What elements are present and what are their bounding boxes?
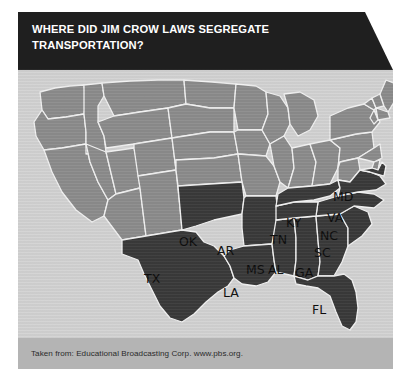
us-choropleth-map: OK AR TX LA MS AL GA FL SC NC TN KY VA M…	[18, 70, 393, 338]
state-MN	[234, 84, 268, 130]
state-ID	[84, 83, 106, 154]
state-NM	[138, 170, 182, 236]
state-ME	[380, 80, 393, 112]
us-map-svg	[18, 70, 393, 338]
state-label-FL: FL	[312, 304, 326, 317]
state-OK	[178, 182, 244, 230]
state-WA	[40, 85, 86, 119]
figure-card: OK AR TX LA MS AL GA FL SC NC TN KY VA M…	[18, 12, 393, 369]
figure-title: WHERE DID JIM CROW LAWS SEGREGATE TRANSP…	[32, 22, 332, 53]
state-label-MD: MD	[333, 191, 353, 204]
caption-band: Taken from: Educational Broadcasting Cor…	[18, 338, 393, 369]
state-CO	[134, 138, 176, 176]
state-MI	[284, 92, 318, 136]
state-label-TN: TN	[270, 234, 287, 247]
state-label-KY: KY	[286, 217, 301, 230]
state-label-LA: LA	[223, 287, 239, 300]
state-label-GA: GA	[295, 267, 313, 280]
state-label-MS: MS	[246, 264, 265, 277]
state-label-VA: VA	[327, 212, 343, 225]
state-label-TX: TX	[144, 273, 160, 286]
state-label-OK: OK	[179, 236, 197, 249]
state-label-AL: AL	[268, 264, 284, 277]
state-label-AR: AR	[217, 245, 234, 258]
state-label-NC: NC	[320, 230, 338, 243]
title-banner: WHERE DID JIM CROW LAWS SEGREGATE TRANSP…	[18, 12, 393, 70]
state-label-SC: SC	[314, 247, 331, 260]
state-FL	[294, 274, 358, 330]
state-ND	[184, 80, 236, 108]
figure-caption: Taken from: Educational Broadcasting Cor…	[31, 348, 243, 359]
